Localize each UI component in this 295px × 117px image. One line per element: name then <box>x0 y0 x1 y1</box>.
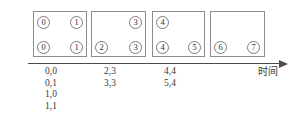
token-g1-top-left: 0 <box>37 16 50 29</box>
label-column-3: 4,4 5,4 <box>164 66 176 89</box>
label-g1-0: 0,0 <box>45 66 57 78</box>
label-g1-1: 0,1 <box>45 78 57 90</box>
token-g3-bottom-left: 4 <box>156 41 169 54</box>
label-column-1: 0,0 0,1 1,0 1,1 <box>45 66 57 112</box>
label-g3-1: 5,4 <box>164 78 176 90</box>
token-g4-bottom-left: 6 <box>214 41 227 54</box>
timeline-grouping-diagram: 0 1 0 1 3 2 3 4 4 5 6 7 时间 0,0 0,1 1,0 1… <box>0 0 295 117</box>
token-g1-bottom-right: 1 <box>70 41 83 54</box>
token-g3-top-left: 4 <box>156 16 169 29</box>
token-g2-bottom-left: 2 <box>95 41 108 54</box>
label-g3-0: 4,4 <box>164 66 176 78</box>
timeline-axis-label: 时间 <box>258 66 278 78</box>
token-g3-bottom-right: 5 <box>188 41 201 54</box>
label-g1-2: 1,0 <box>45 89 57 101</box>
token-g2-top-right: 3 <box>129 16 142 29</box>
token-g1-bottom-left: 0 <box>37 41 50 54</box>
token-g4-bottom-right: 7 <box>247 41 260 54</box>
token-g2-bottom-right: 3 <box>129 41 142 54</box>
timeline-axis-line <box>28 63 283 64</box>
token-g1-top-right: 1 <box>70 16 83 29</box>
label-g1-3: 1,1 <box>45 101 57 113</box>
label-column-2: 2,3 3,3 <box>104 66 116 89</box>
arrow-right-icon <box>279 60 288 68</box>
label-g2-1: 3,3 <box>104 78 116 90</box>
label-g2-0: 2,3 <box>104 66 116 78</box>
